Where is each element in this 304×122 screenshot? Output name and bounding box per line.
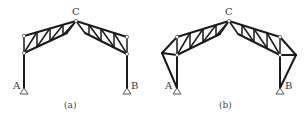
hinge-right-bottom-b xyxy=(278,53,281,56)
caption-b: (b) xyxy=(219,100,232,110)
figure-a: C A B (a) xyxy=(12,6,138,110)
left-truss-a xyxy=(24,21,76,53)
hinge-right-top-b xyxy=(278,35,281,38)
pin-support-b-icon xyxy=(276,88,284,94)
label-c-a: C xyxy=(72,6,80,17)
figure-b: C A B (b) xyxy=(162,6,296,110)
pin-support-b-icon xyxy=(123,88,131,94)
right-truss-a xyxy=(76,21,127,54)
hinge-right-top-a xyxy=(125,35,128,38)
hinge-left-top-a xyxy=(22,34,25,37)
hinge-c-a xyxy=(74,19,77,22)
caption-a: (a) xyxy=(64,100,76,110)
right-truss-b xyxy=(229,21,280,55)
label-b-b: B xyxy=(285,80,292,91)
label-b-a: B xyxy=(131,80,138,91)
label-c-b: C xyxy=(225,6,233,17)
hinge-left-bottom-a xyxy=(22,51,25,54)
label-a-a: A xyxy=(12,80,21,91)
label-a-b: A xyxy=(164,80,173,91)
hinge-left-bottom-b xyxy=(175,53,178,56)
hinge-left-top-b xyxy=(175,35,178,38)
hinge-right-bottom-a xyxy=(125,52,128,55)
pin-support-a-icon xyxy=(173,88,181,94)
truss-frames-diagram: C A B (a) xyxy=(0,0,304,122)
hinge-c-b xyxy=(227,19,230,22)
pin-support-a-icon xyxy=(20,88,28,94)
left-truss-b xyxy=(177,21,229,55)
